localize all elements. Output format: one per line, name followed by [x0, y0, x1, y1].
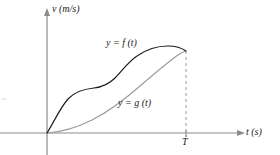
x-tick-label-T: T	[182, 137, 188, 147]
y-axis-arrowhead-icon	[44, 8, 50, 16]
curve-f-label: y = f (t)	[106, 38, 137, 48]
velocity-time-figure: v (m/s) t (s) y = f (t) y = g (t) T =	[0, 0, 280, 155]
curve-g-label: y = g (t)	[118, 98, 151, 108]
page-margin-mark: =	[2, 96, 7, 104]
plot-area	[0, 0, 280, 155]
y-axis-label: v (m/s)	[52, 4, 80, 14]
x-axis-arrowhead-icon	[237, 130, 245, 136]
curve-g	[47, 51, 186, 133]
curve-f	[47, 46, 186, 133]
x-axis-label: t (s)	[246, 127, 262, 137]
